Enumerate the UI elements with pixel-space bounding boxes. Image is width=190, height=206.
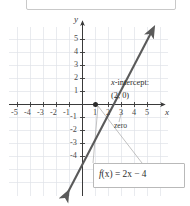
x-tick-label: 3 — [119, 109, 123, 117]
y-tick-label: -4 — [70, 152, 77, 160]
x-intercept-point — [93, 102, 98, 107]
x-tick-label: -4 — [24, 109, 31, 117]
zero-label: zero — [114, 122, 127, 130]
y-tick-label: 5 — [74, 35, 78, 43]
y-axis-label: y — [74, 15, 78, 24]
equation-text: f(x) = 2x − 4 — [99, 169, 147, 179]
x-tick-label: -2 — [50, 109, 57, 117]
x-intercept-coordinates: (2, 0) — [111, 92, 129, 100]
x-tick-label: 1 — [93, 109, 97, 117]
y-tick-label: -1 — [70, 113, 77, 121]
x-tick-label: 2 — [106, 109, 110, 117]
y-tick-label: -2 — [70, 126, 77, 134]
x-tick-label: 5 — [145, 109, 149, 117]
x-tick-label: -1 — [63, 109, 70, 117]
x-tick-label: -5 — [11, 109, 18, 117]
equation-body: (x) = 2x − 4 — [102, 169, 147, 179]
figure-graph-of-linear-function: -5 -4 -3 -2 -1 1 2 3 4 5 5 4 3 2 1 -1 -2… — [0, 0, 190, 206]
y-tick-label: 1 — [74, 87, 78, 95]
y-tick-label: -3 — [70, 139, 77, 147]
x-tick-label: -3 — [37, 109, 44, 117]
y-tick-label: 2 — [74, 74, 78, 82]
y-tick-label: 4 — [74, 48, 78, 56]
x-intercept-annotation-text: -intercept: — [115, 78, 149, 87]
x-axis-label: x — [165, 108, 169, 117]
x-tick-label: 4 — [132, 109, 136, 117]
y-tick-label: 3 — [74, 61, 78, 69]
x-intercept-annotation: x-intercept: — [111, 79, 149, 87]
